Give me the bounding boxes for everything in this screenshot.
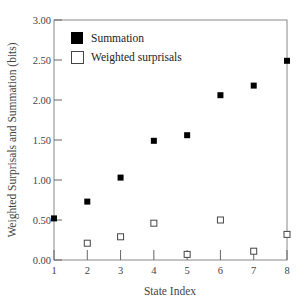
x-tick-label: 3 bbox=[118, 265, 123, 276]
data-point bbox=[84, 199, 90, 205]
x-tick-label: 2 bbox=[85, 265, 90, 276]
legend-summation-swatch-icon bbox=[71, 32, 83, 44]
scatter-chart: 0.000.501.001.502.002.503.00 12345678 St… bbox=[0, 0, 306, 304]
data-point bbox=[217, 217, 223, 223]
y-tick-label: 0.50 bbox=[33, 215, 51, 226]
x-tick-label: 6 bbox=[218, 265, 223, 276]
y-tick-label: 1.50 bbox=[33, 135, 51, 146]
x-tick-label: 5 bbox=[185, 265, 190, 276]
x-tick-label: 1 bbox=[51, 265, 56, 276]
legend: Summation Weighted surprisals bbox=[71, 32, 182, 64]
data-point bbox=[284, 231, 290, 237]
series-weighted-surprisals bbox=[84, 217, 290, 257]
y-tick-label: 3.00 bbox=[33, 15, 51, 26]
legend-weighted-swatch-icon bbox=[72, 52, 84, 64]
x-tick-label: 7 bbox=[251, 265, 256, 276]
data-point bbox=[217, 92, 223, 98]
x-tick-label: 4 bbox=[151, 265, 157, 276]
data-point bbox=[184, 132, 190, 138]
x-tick-label: 8 bbox=[284, 265, 289, 276]
data-point bbox=[151, 138, 157, 144]
series-summation bbox=[51, 58, 290, 222]
y-tick-label: 1.00 bbox=[33, 175, 51, 186]
data-point bbox=[84, 240, 90, 246]
data-series bbox=[51, 58, 290, 258]
data-point bbox=[184, 251, 190, 257]
y-tick-label: 2.50 bbox=[33, 55, 51, 66]
data-point bbox=[251, 248, 257, 254]
data-point bbox=[284, 58, 290, 64]
legend-weighted-label: Weighted surprisals bbox=[91, 51, 182, 64]
data-point bbox=[51, 215, 57, 221]
data-point bbox=[118, 175, 124, 181]
y-tick-label: 2.00 bbox=[33, 95, 51, 106]
data-point bbox=[151, 220, 157, 226]
y-axis-ticks: 0.000.501.001.502.002.503.00 bbox=[33, 15, 62, 266]
y-tick-label: 0.00 bbox=[33, 255, 51, 266]
y-axis-title: Weighted Surprisals and Summation (bits) bbox=[6, 42, 19, 237]
legend-summation-label: Summation bbox=[91, 32, 144, 44]
data-point bbox=[118, 234, 124, 240]
x-axis-title: State Index bbox=[144, 285, 196, 297]
data-point bbox=[251, 83, 257, 89]
